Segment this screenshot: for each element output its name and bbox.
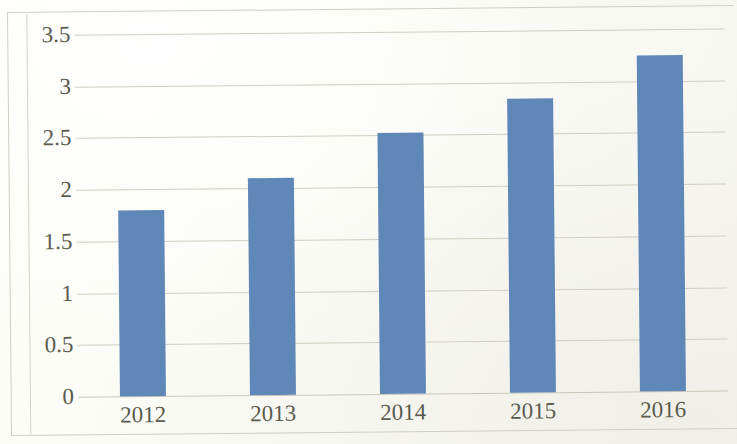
y-axis-tick-label: 1.5 — [16, 230, 72, 254]
y-axis-tick-label: 0 — [18, 385, 74, 409]
y-axis-tick: 1.5 — [0, 242, 72, 244]
y-axis-tick-label: 2.5 — [15, 126, 71, 150]
bar — [637, 55, 686, 392]
bar — [377, 133, 425, 394]
y-axis-tick: 2 — [0, 190, 72, 192]
x-axis-tick-label: 2013 — [213, 401, 333, 425]
y-axis-labels: 00.511.522.533.5 — [0, 0, 733, 1]
y-axis-tick-label: 3 — [15, 75, 71, 99]
y-axis-tick: 0.5 — [0, 345, 73, 347]
y-axis-tick: 3.5 — [0, 35, 71, 37]
chart-page: 00.511.522.533.5 20122013201420152016 — [0, 0, 737, 444]
y-axis-tick: 2.5 — [0, 138, 71, 140]
bars-layer — [0, 0, 733, 1]
x-axis-tick-label: 2015 — [473, 399, 593, 423]
gridline — [74, 29, 724, 36]
gridline — [75, 80, 725, 87]
y-axis-tick-label: 2 — [16, 178, 72, 202]
y-axis-tick-label: 3.5 — [14, 23, 70, 47]
y-axis-tick: 0 — [0, 397, 74, 399]
plot-area: 00.511.522.533.5 20122013201420152016 — [0, 0, 737, 444]
x-axis-tick-label: 2016 — [603, 398, 723, 422]
y-axis-tick: 1 — [0, 293, 73, 295]
x-axis-labels: 20122013201420152016 — [0, 0, 733, 1]
bar — [507, 99, 556, 393]
x-axis-tick-label: 2014 — [343, 400, 463, 424]
x-axis-tick-label: 2012 — [83, 403, 203, 427]
y-axis-tick-label: 0.5 — [17, 333, 73, 357]
y-axis-tick: 3 — [0, 87, 71, 89]
bar — [248, 178, 296, 396]
y-axis-tick-label: 1 — [17, 281, 73, 305]
bar — [118, 210, 166, 397]
gridlines-layer — [0, 0, 733, 1]
